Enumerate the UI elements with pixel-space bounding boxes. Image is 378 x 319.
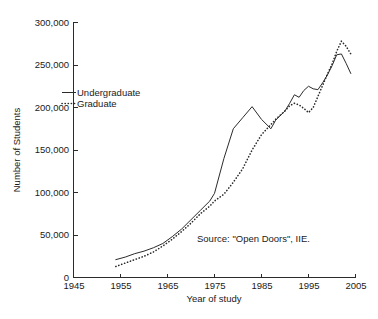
x-tick-label: 1985	[251, 280, 272, 291]
x-tick-label: 1945	[63, 280, 84, 291]
legend-label-undergraduate: Undergraduate	[77, 87, 140, 98]
x-tick-label: 1955	[110, 280, 131, 291]
x-tick-label: 1965	[157, 280, 178, 291]
y-tick-label: 50,000	[40, 229, 69, 240]
y-tick-label: 250,000	[35, 59, 69, 70]
legend-label-graduate: Graduate	[77, 98, 117, 109]
chart-container: 300,000 250,000 200,000 150,000 100,000 …	[0, 0, 378, 319]
line-chart: 300,000 250,000 200,000 150,000 100,000 …	[0, 0, 378, 319]
y-tick-label: 200,000	[35, 102, 69, 113]
source-annotation: Source: "Open Doors", IIE.	[197, 233, 310, 244]
chart-background	[0, 0, 378, 319]
x-tick-label: 1995	[298, 280, 319, 291]
x-tick-label: 2005	[345, 280, 366, 291]
y-tick-label: 150,000	[35, 144, 69, 155]
x-axis-title: Year of study	[186, 293, 241, 304]
y-tick-label: 300,000	[35, 17, 69, 28]
y-axis-title: Number of Students	[11, 108, 22, 193]
x-tick-label: 1975	[204, 280, 225, 291]
y-tick-label: 100,000	[35, 187, 69, 198]
